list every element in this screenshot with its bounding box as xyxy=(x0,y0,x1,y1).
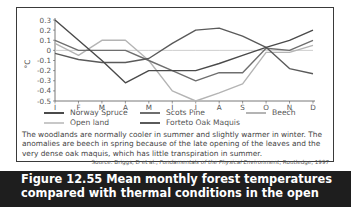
figure-label: Figure 12.55 xyxy=(21,172,102,186)
legend-label: Forteto Oak Maquis xyxy=(166,118,240,127)
legend-label: Beech xyxy=(272,108,296,117)
legend-swatch xyxy=(44,122,64,124)
source-prefix: Source: Briggs, D et al., xyxy=(91,159,159,165)
y-tick-label: -0.3 xyxy=(37,76,51,85)
y-tick-label: 0 xyxy=(46,46,51,55)
y-tick-label: 0.1 xyxy=(40,36,51,45)
legend-swatch xyxy=(44,112,64,114)
legend-label: Open land xyxy=(70,118,109,127)
chart-legend: Norway Spruce Scots Pine Beech Open land… xyxy=(44,108,324,128)
legend-item-open-land: Open land xyxy=(44,118,109,127)
legend-item-forteto-oak-maquis: Forteto Oak Maquis xyxy=(140,118,240,127)
legend-item-beech: Beech xyxy=(246,108,296,117)
y-tick-label: -0.2 xyxy=(37,66,51,75)
legend-swatch xyxy=(140,122,160,124)
source-citation: Source: Briggs, D et al., Fundamentals o… xyxy=(91,159,329,165)
figure-description: The woodlands are normally cooler in sum… xyxy=(22,130,332,158)
y-tick-label: 0.2 xyxy=(40,26,51,35)
legend-item-scots-pine: Scots Pine xyxy=(140,108,205,117)
legend-swatch xyxy=(246,112,266,114)
series-line-norway-spruce xyxy=(55,20,313,83)
legend-label: Norway Spruce xyxy=(70,108,128,117)
y-tick-label: 0.3 xyxy=(40,16,51,25)
legend-label: Scots Pine xyxy=(166,108,205,117)
y-tick-label: -0.1 xyxy=(37,56,51,65)
y-axis-label: °C xyxy=(23,60,32,69)
line-chart: 0.30.20.10-0.1-0.2-0.3-0.4-0.5°CJFMAMJJA… xyxy=(0,0,351,110)
source-suffix: , Routledge, 1997 xyxy=(279,159,329,165)
legend-swatch xyxy=(140,112,160,114)
figure-caption: Figure 12.55 Mean monthly forest tempera… xyxy=(0,171,351,207)
source-title: Fundamentals of the Physical Environment xyxy=(159,159,279,165)
y-tick-label: -0.4 xyxy=(37,86,51,95)
y-tick-label: -0.5 xyxy=(37,97,51,106)
legend-item-norway-spruce: Norway Spruce xyxy=(44,108,128,117)
